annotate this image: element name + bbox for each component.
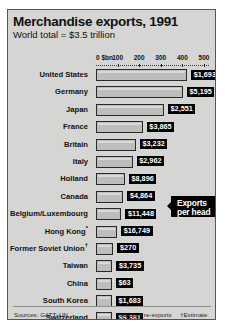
chart-title: Merchandise exports, 1991 [13,14,215,29]
bar-row: Former Soviet Union†$270 [8,242,216,259]
bar-highlight [98,280,110,282]
bar-row: Japan$2,551 [8,103,216,120]
callout-box: Exports per head [171,196,215,217]
country-label-marker: † [85,242,88,248]
bar-highlight [98,314,110,316]
per-head-value-badge: $11,448 [125,209,156,219]
per-head-value-badge: $16,749 [121,226,152,236]
country-label-marker: * [86,225,88,231]
chart-subtitle: World total = $3.5 trillion [13,29,215,41]
export-bar [96,208,121,220]
axis-tick-label-200: 200 [134,54,145,61]
export-bar [96,191,123,203]
export-bar [96,86,183,98]
country-label: Canada [8,190,88,204]
axis-tick-label-100: 100 [112,54,123,61]
bar-highlight [98,141,134,143]
export-bar [96,69,187,81]
axis-rule [96,64,209,67]
country-label: Germany [8,85,88,99]
country-label: Italy [8,155,88,169]
bar-row: Hong Kong*$16,749 [8,225,216,242]
bar-highlight [98,193,121,195]
country-label: China [8,277,88,291]
country-label: Japan [8,103,88,117]
bar-rows: United States$1,693Germany$5,195Japan$2,… [8,68,216,320]
footer-sources: Sources: GATT; UN [14,311,68,318]
footer-divider [13,306,211,307]
axis-tick-mark-200 [139,64,140,67]
export-bar [96,243,113,255]
per-head-value-badge: $3,865 [147,122,174,132]
export-bar [96,121,143,133]
country-label: United States [8,68,88,82]
per-head-value-badge: $3,232 [140,139,167,149]
export-bar [96,260,112,272]
bar-highlight [98,245,111,247]
axis-tick-label-500: 500 [199,54,210,61]
bar-row: France$3,865 [8,120,216,137]
axis-tick-label-400: 400 [177,54,188,61]
axis-tick-mark-300 [161,64,162,67]
bar-highlight [98,175,123,177]
chart-card: Merchandise exports, 1991 World total = … [7,9,216,320]
bar-highlight [98,297,110,299]
per-head-value-badge: $1,693 [191,70,216,80]
callout-line-2: per head [177,207,210,217]
export-bar [96,278,112,290]
bar-highlight [98,71,185,73]
axis-tick-label-300: 300 [155,54,166,61]
per-head-value-badge: $270 [117,243,138,253]
exports-per-head-callout: Exports per head [167,196,215,217]
country-label: Hong Kong* [8,225,88,239]
per-head-value-badge: $5,195 [187,87,214,97]
bar-row: China$63 [8,277,216,294]
footer-note-asterisk: *includes re-exports [117,311,172,318]
bar-row: Britain$3,232 [8,138,216,155]
country-label: Holland [8,172,88,186]
bar-highlight [98,158,131,160]
axis-dotted-line [96,65,209,66]
bar-row: United States$1,693 [8,68,216,85]
export-bar [96,226,117,238]
x-axis: 0 $bn 100200300400500 [96,54,209,68]
export-bar [96,104,164,116]
axis-unit-label: 0 $bn [96,54,113,61]
export-bar [96,139,136,151]
export-bar [96,156,133,168]
footer-note-dagger: †Estimate [180,311,208,318]
per-head-value-badge: $1,683 [116,296,143,306]
bar-highlight [98,123,141,125]
bar-highlight [98,262,110,264]
export-bar [96,173,125,185]
country-label: Britain [8,138,88,152]
per-head-value-badge: $63 [116,278,133,288]
bar-highlight [98,88,181,90]
country-label: Taiwan [8,259,88,273]
export-bar [96,312,112,320]
per-head-value-badge: $4,864 [127,191,154,201]
chart-header: Merchandise exports, 1991 World total = … [8,10,215,41]
bar-highlight [98,228,115,230]
bar-row: Italy$2,962 [8,155,216,172]
bar-row: Taiwan$3,735 [8,259,216,276]
per-head-value-badge: $2,551 [168,104,195,114]
country-label: Belgium/Luxembourg [8,207,88,221]
bar-highlight [98,210,119,212]
country-label: Former Soviet Union† [8,242,88,256]
per-head-value-badge: $8,896 [129,174,156,184]
per-head-value-badge: $2,962 [137,156,164,166]
axis-tick-mark-500 [204,64,205,67]
axis-tick-mark-100 [118,64,119,67]
bar-row: Germany$5,195 [8,85,216,102]
country-label: France [8,120,88,134]
axis-tick-mark-400 [182,64,183,67]
per-head-value-badge: $3,735 [116,261,143,271]
bar-row: South Korea$1,683 [8,294,216,311]
bar-highlight [98,106,162,108]
bar-row: Holland$8,896 [8,172,216,189]
